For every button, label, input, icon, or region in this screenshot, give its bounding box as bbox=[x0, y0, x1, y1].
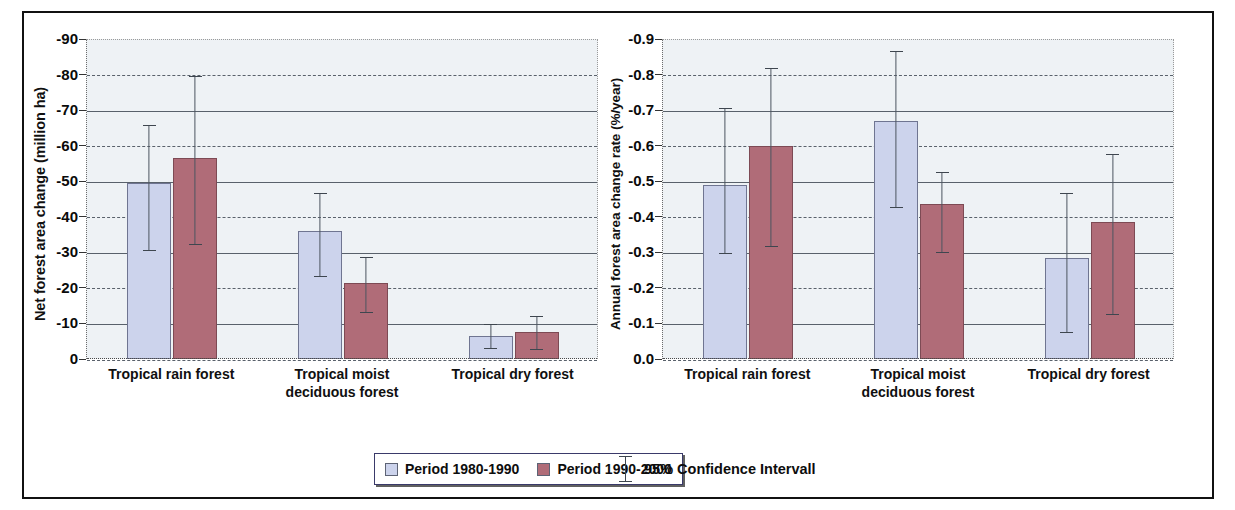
y-tick-label: -30 bbox=[56, 244, 78, 260]
y-tick-label: -70 bbox=[56, 102, 78, 118]
x-category-label: Tropical moistdeciduous forest bbox=[819, 365, 1018, 401]
y-tick-mark bbox=[655, 145, 662, 146]
y-tick-label: -50 bbox=[56, 173, 78, 189]
x-category-label: Tropical dry forest bbox=[413, 365, 612, 383]
y-tick-label: -40 bbox=[56, 209, 78, 225]
error-bar bbox=[127, 125, 171, 249]
x-category-label-line: deciduous forest bbox=[819, 383, 1018, 401]
y-tick-mark bbox=[79, 287, 86, 288]
y-tick-mark bbox=[655, 252, 662, 253]
plot-area-right bbox=[662, 39, 1174, 359]
x-category-label-line: Tropical rain forest bbox=[648, 365, 847, 383]
legend-row: Period 1980-1990 Period 1990-2000 95% Co… bbox=[24, 449, 1216, 499]
x-category-label-line: Tropical moist bbox=[819, 365, 1018, 383]
x-category-label-line: deciduous forest bbox=[243, 383, 442, 401]
y-tick-mark bbox=[79, 39, 86, 40]
y-tick-label: -0.9 bbox=[628, 31, 654, 47]
plot-area-left bbox=[86, 39, 598, 359]
x-category-label: Tropical dry forest bbox=[989, 365, 1188, 383]
x-axis-category-labels-left: Tropical rain forestTropical moistdecidu… bbox=[24, 365, 620, 425]
zero-axis-line bbox=[663, 358, 1173, 359]
error-bar bbox=[173, 76, 217, 245]
y-tick-mark bbox=[79, 216, 86, 217]
y-tick-label: -0.8 bbox=[628, 67, 654, 83]
y-tick-label: -0.1 bbox=[628, 315, 654, 331]
y-tick-label: -0.2 bbox=[628, 280, 654, 296]
error-bar bbox=[1045, 193, 1089, 332]
x-category-label-line: Tropical dry forest bbox=[989, 365, 1188, 383]
y-tick-mark bbox=[79, 145, 86, 146]
gridline bbox=[87, 360, 597, 361]
error-bar bbox=[703, 108, 747, 254]
error-bar-icon bbox=[619, 456, 632, 482]
period-1980-1990-swatch bbox=[385, 463, 398, 476]
legend-entry-period-1980-1990: Period 1980-1990 bbox=[385, 461, 519, 477]
error-bar bbox=[298, 193, 342, 277]
x-category-label-line: Tropical rain forest bbox=[72, 365, 271, 383]
y-tick-label: -0.3 bbox=[628, 244, 654, 260]
error-bar bbox=[749, 68, 793, 246]
y-tick-label: -0.5 bbox=[628, 173, 654, 189]
y-axis-title-left: Net forest area change (million ha) bbox=[32, 39, 58, 369]
error-bar bbox=[515, 316, 559, 350]
y-tick-label: -80 bbox=[56, 67, 78, 83]
y-tick-label: -0.4 bbox=[628, 209, 654, 225]
figure-frame: Net forest area change (million ha) -90-… bbox=[22, 11, 1214, 499]
y-tick-mark bbox=[79, 110, 86, 111]
confidence-interval-label: 95% Confidence Intervall bbox=[644, 461, 816, 477]
y-tick-mark bbox=[79, 252, 86, 253]
gridline bbox=[663, 75, 1173, 76]
y-tick-mark bbox=[79, 74, 86, 75]
x-category-label: Tropical rain forest bbox=[648, 365, 847, 383]
confidence-interval-note: 95% Confidence Intervall bbox=[619, 453, 816, 485]
x-category-label: Tropical rain forest bbox=[72, 365, 271, 383]
y-tick-mark bbox=[655, 323, 662, 324]
x-category-label-line: Tropical moist bbox=[243, 365, 442, 383]
x-category-label-line: Tropical dry forest bbox=[413, 365, 612, 383]
error-bar bbox=[1091, 154, 1135, 314]
error-bar bbox=[469, 324, 513, 347]
x-category-label: Tropical moistdeciduous forest bbox=[243, 365, 442, 401]
y-tick-label: -0.7 bbox=[628, 102, 654, 118]
gridline bbox=[87, 111, 597, 112]
y-tick-label: -90 bbox=[56, 31, 78, 47]
x-axis-category-labels-right: Tropical rain forestTropical moistdecidu… bbox=[600, 365, 1196, 425]
gridline bbox=[663, 360, 1173, 361]
y-tick-mark bbox=[655, 110, 662, 111]
period-1990-2000-swatch bbox=[537, 463, 550, 476]
y-tick-mark bbox=[655, 39, 662, 40]
error-bar bbox=[874, 51, 918, 207]
y-tick-mark bbox=[79, 181, 86, 182]
chart-panel-net-area-change: Net forest area change (million ha) -90-… bbox=[24, 13, 620, 453]
y-tick-mark bbox=[655, 181, 662, 182]
y-tick-label: -10 bbox=[56, 315, 78, 331]
y-tick-mark bbox=[79, 359, 86, 360]
y-tick-mark bbox=[655, 287, 662, 288]
legend-label-period-1980-1990: Period 1980-1990 bbox=[405, 461, 519, 477]
error-bar bbox=[920, 172, 964, 252]
error-bar bbox=[344, 257, 388, 312]
y-tick-label: -0.6 bbox=[628, 138, 654, 154]
y-tick-label: -20 bbox=[56, 280, 78, 296]
zero-axis-line bbox=[87, 358, 597, 359]
gridline bbox=[87, 75, 597, 76]
y-tick-mark bbox=[79, 323, 86, 324]
y-tick-mark bbox=[655, 216, 662, 217]
y-tick-mark bbox=[655, 359, 662, 360]
y-tick-label: -60 bbox=[56, 138, 78, 154]
chart-panel-annual-change-rate: Annual forest area change rate (%/year) … bbox=[600, 13, 1196, 453]
y-tick-mark bbox=[655, 74, 662, 75]
